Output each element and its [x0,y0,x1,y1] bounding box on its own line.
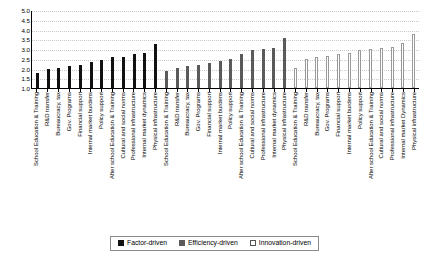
legend-label: Efficiency-driven [188,240,238,247]
bar [154,44,157,88]
x-axis-label: Gov. Programs [195,92,201,131]
x-axis-label: School Education & Training [292,92,298,166]
bar-slot [376,11,387,88]
bar-slot [226,11,237,88]
bar-slot [161,11,172,88]
x-axis-label: Cultural and social norms [378,92,384,158]
x-axis-labels: School Education & TrainingR&D transferB… [31,92,419,212]
x-axis-label: Cultural and social norms [120,92,126,158]
bar [47,69,50,88]
x-axis-label: Cultural and social norms [249,92,255,158]
bar-slot [333,11,344,88]
bar-slot [107,11,118,88]
bar [412,34,415,88]
bar [401,43,404,88]
x-axis-label: Internal market dynamics [271,92,277,158]
bar [348,53,351,88]
bar-slot [236,11,247,88]
y-axis-tick-label: 2.5 [21,57,30,63]
x-axis-label: Financial support [206,92,212,137]
bar [186,66,189,88]
x-axis-label: Bureaucracy, tax [55,92,61,136]
chart-legend: Factor-drivenEfficiency-drivenInnovation… [110,236,319,251]
x-axis-label: Policy support [357,92,363,129]
legend-label: Innovation-driven [259,240,311,247]
bar [391,47,394,88]
bar-slot [75,11,86,88]
bar [208,63,211,88]
legend-swatch-icon [250,240,256,246]
y-axis-tick-label: 4.5 [21,18,30,24]
x-axis-label: Policy support [227,92,233,129]
x-axis-label: After school Education & Training [368,92,374,179]
bar [251,50,254,88]
bar-slot [97,11,108,88]
legend-item[interactable]: Innovation-driven [250,240,311,247]
bar [143,53,146,88]
x-axis-label: Financial support [77,92,83,137]
bar-slot [322,11,333,88]
x-axis-label: Physical infrastructure [281,92,287,150]
x-axis-label: Professional infrastructure [260,92,266,160]
bar-slot [301,11,312,88]
x-axis-label: Financial support [335,92,341,137]
x-axis-label: Gov. Programs [66,92,72,131]
bar [380,48,383,88]
x-axis-label: After school Education & Training [238,92,244,179]
bar-slot [129,11,140,88]
x-axis-label: Internal market burdens [346,92,352,154]
chart-root: 5.04.54.03.53.02.52.01.51.0 School Educa… [0,0,423,270]
bar [122,57,125,88]
legend-item[interactable]: Factor-driven [118,240,167,247]
y-axis-tick-label: 2.0 [21,66,30,72]
bar [272,48,275,88]
bar [219,61,222,88]
bar [197,65,200,88]
bar [111,57,114,88]
x-axis-label: School Education & Training [163,92,169,166]
bar [68,66,71,88]
bar-slot [118,11,129,88]
bar [165,71,168,88]
x-axis-label: Internal market Dynamics [400,92,406,159]
bar [326,56,329,88]
bar-slot [215,11,226,88]
bar [315,57,318,88]
bar [100,60,103,88]
legend-swatch-icon [118,240,124,246]
x-axis-label: Professional infrastructure [130,92,136,160]
bar [90,62,93,88]
x-axis-label: R&D transfer [174,92,180,126]
legend-item[interactable]: Efficiency-driven [179,240,238,247]
x-axis-label: Bureaucracy, tax [184,92,190,136]
y-axis-tick-label: 3.5 [21,37,30,43]
bar [283,38,286,88]
bar-slot [258,11,269,88]
x-axis-label: Policy support [98,92,104,129]
bar-slot [193,11,204,88]
bar-slot [64,11,75,88]
bar-slot [408,11,419,88]
legend-label: Factor-driven [127,240,167,247]
bar [79,65,82,88]
bar-slot [312,11,323,88]
bar [240,54,243,88]
bar-slot [387,11,398,88]
bar [57,68,60,88]
bar-slot [247,11,258,88]
bar-slot [355,11,366,88]
bar [369,49,372,88]
bar-slot [86,11,97,88]
bar-slot [365,11,376,88]
bar [176,68,179,88]
plot-area: 5.04.54.03.53.02.52.01.51.0 [31,11,419,89]
bar-slot [269,11,280,88]
bar [133,54,136,88]
bar [229,59,232,88]
x-axis-label: Professional infrastructure [389,92,395,160]
bar-slot [183,11,194,88]
x-axis-label: Physical infrastructure [411,92,417,150]
x-axis-label: School Education & Training [33,92,39,166]
bar-slot [43,11,54,88]
bar [36,73,39,88]
